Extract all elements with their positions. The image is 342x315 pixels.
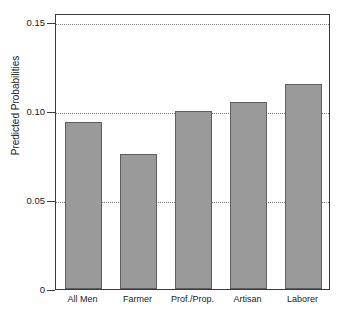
x-tick-label-laborer: Laborer xyxy=(263,294,342,305)
bar-prof-prop xyxy=(175,111,212,289)
plot-area xyxy=(55,14,330,290)
y-tick-mark-0 xyxy=(47,290,55,291)
y-tick-mark-0.05 xyxy=(47,201,55,202)
y-axis-tick-labels: 00.050.100.15 xyxy=(0,0,45,315)
gridline-0.15 xyxy=(56,24,329,25)
y-tick-mark-0.10 xyxy=(47,112,55,113)
y-tick-label-0.10: 0.10 xyxy=(27,107,46,117)
bar-chart-figure: Predicted Probabilities 00.050.100.15 Al… xyxy=(0,0,342,315)
y-tick-label-0.05: 0.05 xyxy=(27,196,46,206)
y-tick-label-0.15: 0.15 xyxy=(27,18,46,28)
bar-laborer xyxy=(285,84,322,289)
bar-all-men xyxy=(65,122,102,289)
y-tick-mark-0.15 xyxy=(47,23,55,24)
bar-farmer xyxy=(120,154,157,289)
bar-artisan xyxy=(230,102,267,289)
